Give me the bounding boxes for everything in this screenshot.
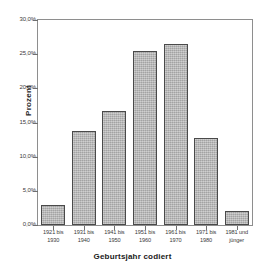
bar-slot [164,20,188,225]
bar [102,111,126,225]
x-tick-label-line: 1950 [99,237,129,245]
y-tick-label: 15,0% [0,119,36,125]
x-tick-label: 1961 bis1970 [161,229,191,251]
y-tick-label: 20,0% [0,84,36,90]
bar-slot [133,20,157,225]
x-axis-labels: 1921 bis19301931 bis19401941 bis19501951… [38,229,252,251]
x-tick-label: 1921 bis1930 [38,229,68,251]
x-tick-label-line: 1971 bis [191,229,221,237]
y-tick-label: 25,0% [0,50,36,56]
y-tick-label: 10,0% [0,153,36,159]
bar [225,211,249,225]
bar [194,138,218,225]
x-tick-label-line: 1961 bis [161,229,191,237]
bar [133,51,157,225]
bar [72,131,96,225]
x-tick-label: 1951 bis1960 [130,229,160,251]
bar-slot [102,20,126,225]
y-tick-mark [33,225,38,226]
x-tick-label-line: 1951 bis [130,229,160,237]
x-tick-label-line: 1921 bis [38,229,68,237]
x-tick-label-line: 1981 und [222,229,252,237]
x-tick-label: 1941 bis1950 [99,229,129,251]
y-tick-label: 0,0% [0,221,36,227]
bar [164,44,188,225]
x-tick-label: 1981 undjünger [222,229,252,251]
bar-slot [225,20,249,225]
x-tick-label-line: 1941 bis [99,229,129,237]
x-tick-label: 1931 bis1940 [69,229,99,251]
bar-slot [41,20,65,225]
x-axis-title: Geburtsjahr codiert [0,252,265,261]
x-tick-label-line: jünger [222,237,252,245]
x-tick-label-line: 1940 [69,237,99,245]
x-tick-label-line: 1960 [130,237,160,245]
bar-slot [72,20,96,225]
bar [41,205,65,225]
y-tick-label: 30,0% [0,16,36,22]
cutoff-title-strip [0,0,265,9]
bar-chart: Prozent 30,0%25,0%20,0%15,0%10,0%5,0%0,0… [0,0,265,272]
x-tick-label: 1971 bis1980 [191,229,221,251]
bar-series [38,20,252,225]
x-tick-label-line: 1970 [161,237,191,245]
x-tick-label-line: 1930 [38,237,68,245]
y-tick-label: 5,0% [0,187,36,193]
x-tick-label-line: 1931 bis [69,229,99,237]
x-tick-label-line: 1980 [191,237,221,245]
bar-slot [194,20,218,225]
